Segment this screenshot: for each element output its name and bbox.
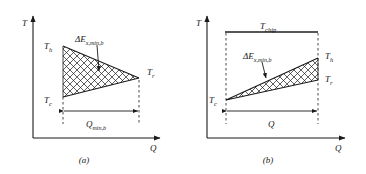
panel-b-label-heat-duty: Q bbox=[268, 119, 275, 129]
panel-a-caption: (a) bbox=[79, 155, 90, 165]
figure-background bbox=[0, 0, 366, 174]
tq-diagram-svg: T Q Th Tc Tr ΔEx,min,b bbox=[0, 0, 366, 174]
figure-container: T Q Th Tc Tr ΔEx,min,b bbox=[0, 0, 366, 174]
panel-a-x-axis-label: Q bbox=[150, 143, 157, 153]
panel-b-x-axis-label: Q bbox=[335, 143, 342, 153]
panel-b-caption: (b) bbox=[263, 155, 274, 165]
